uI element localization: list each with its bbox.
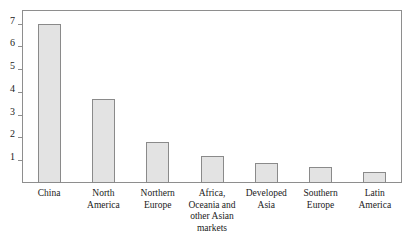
bar: [255, 163, 278, 183]
x-axis-label: NorthAmerica: [78, 188, 128, 211]
bar: [363, 172, 386, 183]
caption-remnant: [180, 0, 330, 3]
y-axis-tick: 3: [0, 115, 22, 116]
y-axis-tick: 1: [0, 160, 22, 161]
bar: [38, 24, 61, 183]
x-axis-label-line: North: [78, 188, 128, 200]
bar: [201, 156, 224, 183]
x-axis-label-line: America: [350, 200, 400, 212]
x-axis-label: Africa,Oceania andother Asianmarkets: [187, 188, 237, 234]
x-axis-label-line: Europe: [295, 200, 345, 212]
x-axis-label-line: Northern: [133, 188, 183, 200]
y-axis-tick-label: 3: [10, 107, 15, 117]
y-axis-tick: 4: [0, 92, 22, 93]
y-axis-tick-label: 1: [10, 152, 15, 162]
y-axis-tick-label: 5: [10, 61, 15, 71]
bars-layer: [22, 10, 402, 183]
y-axis-tick: 6: [0, 46, 22, 47]
x-axis-label-line: other Asian: [187, 211, 237, 223]
x-axis-label-line: Oceania and: [187, 200, 237, 212]
y-axis-tick-label: 4: [10, 84, 15, 94]
x-axis-label: NorthernEurope: [133, 188, 183, 211]
bar-chart-figure: 1234567 ChinaNorthAmericaNorthernEuropeA…: [0, 0, 410, 244]
x-axis-label: DevelopedAsia: [241, 188, 291, 211]
y-axis-tick-label: 7: [10, 16, 15, 26]
bar: [92, 99, 115, 183]
x-axis-label-line: Latin: [350, 188, 400, 200]
x-axis-label: LatinAmerica: [350, 188, 400, 211]
x-axis-label-line: Developed: [241, 188, 291, 200]
bar: [146, 142, 169, 183]
x-axis-label-line: America: [78, 200, 128, 212]
y-axis-tick: 7: [0, 24, 22, 25]
y-axis-tick-label: 2: [10, 129, 15, 139]
x-axis-labels: ChinaNorthAmericaNorthernEuropeAfrica,Oc…: [22, 188, 402, 244]
x-axis-label-line: markets: [187, 223, 237, 235]
y-axis-tick: 2: [0, 137, 22, 138]
x-axis-label: SouthernEurope: [295, 188, 345, 211]
x-axis-label-line: Asia: [241, 200, 291, 212]
x-axis-label: China: [24, 188, 74, 200]
y-axis-tick: 5: [0, 69, 22, 70]
y-axis-tick-label: 6: [10, 38, 15, 48]
x-axis-label-line: Europe: [133, 200, 183, 212]
bar: [309, 167, 332, 183]
y-axis: 1234567: [0, 0, 22, 244]
x-axis-label-line: Southern: [295, 188, 345, 200]
x-axis-label-line: China: [24, 188, 74, 200]
x-axis-label-line: Africa,: [187, 188, 237, 200]
